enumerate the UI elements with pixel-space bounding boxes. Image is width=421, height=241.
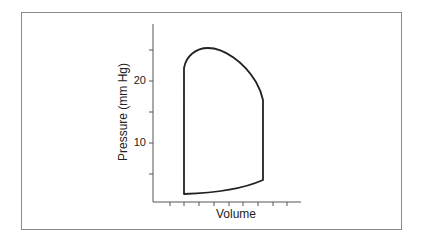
x-axis-label: Volume [216, 207, 256, 221]
y-ticks [149, 50, 153, 174]
pressure-volume-loop [184, 48, 263, 194]
y-axis-label: Pressure (mm Hg) [116, 63, 130, 161]
x-ticks [170, 202, 287, 206]
pv-loop-chart [0, 0, 421, 241]
